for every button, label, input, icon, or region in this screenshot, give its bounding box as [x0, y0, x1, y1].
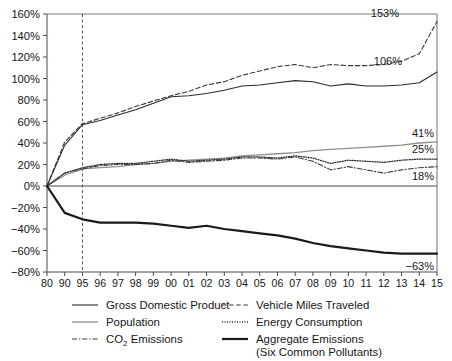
y-tick-label: 120% — [11, 51, 40, 63]
y-tick-label: −20% — [11, 202, 40, 214]
x-tick-label: 97 — [112, 277, 124, 289]
end-label-population: 41% — [412, 127, 434, 139]
x-tick-label: 07 — [289, 277, 301, 289]
x-tick-label: 96 — [94, 277, 106, 289]
y-tick-label: 140% — [11, 30, 40, 42]
end-label-energy-consumption: 25% — [412, 143, 434, 155]
x-tick-label: 01 — [183, 277, 195, 289]
end-label-aggregate-emissions-six-common-pollutants: −63% — [406, 260, 435, 272]
x-tick-label: 11 — [361, 277, 372, 289]
legend-label-gross-domestic-product: Gross Domestic Product — [106, 299, 230, 311]
y-tick-label: 20% — [18, 159, 40, 171]
x-tick-label: 00 — [165, 277, 177, 289]
y-tick-label: −40% — [11, 223, 40, 235]
x-tick-label: 90 — [59, 277, 71, 289]
x-tick-label: 99 — [147, 277, 159, 289]
x-tick-label: 12 — [378, 277, 390, 289]
x-tick-label: 95 — [77, 277, 89, 289]
chart-container: 160%140%120%100%80%60%40%20%0%−20%−40%−6… — [0, 0, 452, 361]
x-tick-label: 80 — [41, 277, 53, 289]
end-label-gross-domestic-product: 106% — [374, 55, 402, 67]
y-tick-label: 0% — [24, 180, 40, 192]
y-tick-label: 100% — [11, 73, 40, 85]
y-tick-label: 160% — [11, 8, 40, 20]
x-tick-label: 08 — [307, 277, 319, 289]
x-tick-label: 15 — [431, 277, 443, 289]
x-tick-label: 03 — [218, 277, 230, 289]
x-tick-label: 06 — [272, 277, 284, 289]
y-tick-label: 60% — [18, 116, 40, 128]
x-tick-label: 02 — [201, 277, 213, 289]
growth-vs-emissions-line-chart: 160%140%120%100%80%60%40%20%0%−20%−40%−6… — [0, 0, 452, 361]
legend-label-vehicle-miles-traveled: Vehicle Miles Traveled — [256, 299, 369, 311]
legend-label-energy-consumption: Energy Consumption — [256, 316, 362, 328]
x-tick-label: 09 — [325, 277, 337, 289]
legend-label-aggregate-emissions: Aggregate Emissions — [256, 333, 364, 345]
end-label-co2-emissions: 18% — [412, 170, 434, 182]
y-tick-label: 80% — [18, 94, 40, 106]
y-tick-label: −80% — [11, 266, 40, 278]
x-tick-label: 05 — [254, 277, 266, 289]
y-tick-label: −60% — [11, 245, 40, 257]
end-label-vehicle-miles-traveled: 153% — [371, 7, 399, 19]
x-tick-label: 04 — [236, 277, 248, 289]
legend-label-population: Population — [106, 316, 160, 328]
x-tick-label: 10 — [342, 277, 354, 289]
x-tick-label: 13 — [396, 277, 408, 289]
x-tick-label: 98 — [130, 277, 142, 289]
y-tick-label: 40% — [18, 137, 40, 149]
x-tick-label: 14 — [413, 277, 425, 289]
legend-sublabel-aggregate-emissions: (Six Common Pollutants) — [256, 346, 382, 358]
